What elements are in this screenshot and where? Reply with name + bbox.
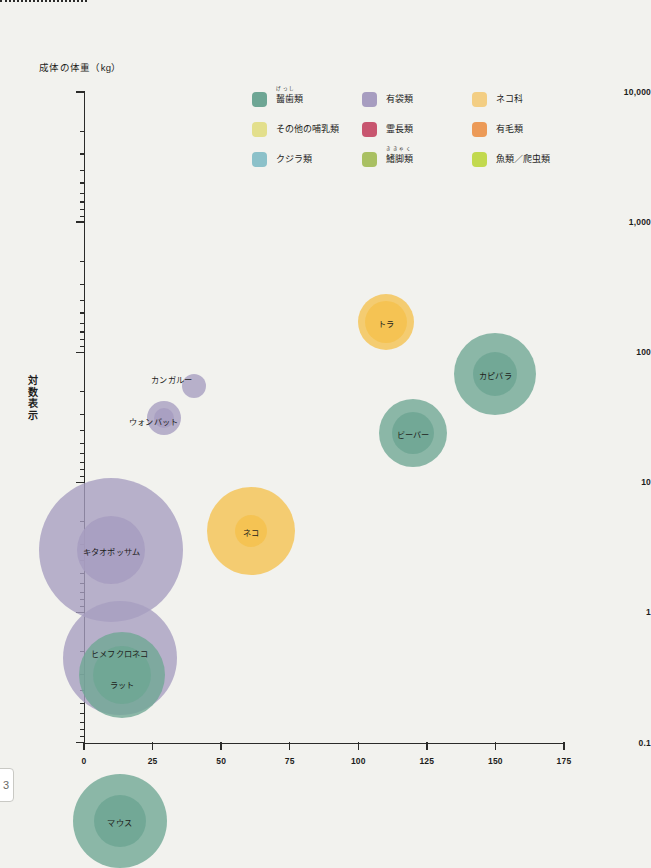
legend-label: ききゃく鰭脚類 xyxy=(386,154,413,165)
legend-swatch xyxy=(252,92,267,107)
legend-item[interactable]: 霊長類 xyxy=(362,118,472,140)
legend-swatch xyxy=(252,152,267,167)
legend-label: 有毛類 xyxy=(496,124,523,135)
y-tick-minor xyxy=(80,476,86,477)
legend-label: クジラ類 xyxy=(276,154,312,165)
y-tick-label: 1,000 xyxy=(577,217,651,227)
legend-swatch xyxy=(472,92,487,107)
x-tick-label: 75 xyxy=(270,756,310,766)
x-tick-label: 50 xyxy=(201,756,241,766)
legend-item[interactable]: ネコ科 xyxy=(472,88,523,110)
y-tick-minor xyxy=(80,722,86,723)
y-tick-minor xyxy=(80,312,86,313)
legend-item[interactable]: げっし齧歯類 xyxy=(252,88,362,110)
legend-label: 有袋類 xyxy=(386,94,413,105)
y-tick-major xyxy=(76,91,85,92)
bubble-label: マウス xyxy=(107,816,132,828)
y-tick-major xyxy=(76,352,85,353)
y-tick-minor xyxy=(80,182,86,183)
legend-swatch xyxy=(362,92,377,107)
y-tick-minor xyxy=(80,469,86,470)
legend-swatch xyxy=(472,122,487,137)
x-tick-major xyxy=(152,742,153,750)
y-tick-minor xyxy=(80,339,86,340)
y-tick-label: 0.1 xyxy=(577,738,651,748)
y-tick-minor xyxy=(80,729,86,730)
y-tick-minor xyxy=(80,300,86,301)
legend-item[interactable]: その他の哺乳類 xyxy=(252,118,362,140)
y-tick-minor xyxy=(80,462,86,463)
y-tick-minor xyxy=(80,443,86,444)
x-tick-label: 175 xyxy=(544,756,584,766)
x-tick-major xyxy=(563,742,564,750)
bubble-label: ウォンバット xyxy=(129,415,178,427)
legend-label: 魚類／爬虫類 xyxy=(496,154,550,165)
bubble-label: キタオポッサム xyxy=(83,545,140,557)
bubble-label: カンガルー xyxy=(151,373,192,385)
bubble-label: トラ xyxy=(378,317,394,329)
legend: げっし齧歯類有袋類ネコ科その他の哺乳類霊長類有毛類クジラ類ききゃく鰭脚類魚類／爬… xyxy=(252,88,648,178)
y-tick-minor xyxy=(80,131,86,132)
legend-label: 霊長類 xyxy=(386,124,413,135)
y-tick-label: 10 xyxy=(577,477,651,487)
y-tick-minor xyxy=(80,331,86,332)
legend-row: その他の哺乳類霊長類有毛類 xyxy=(252,118,648,148)
y-tick-minor xyxy=(80,284,86,285)
y-tick-minor xyxy=(80,736,86,737)
legend-item[interactable]: 有毛類 xyxy=(472,118,523,140)
y-tick-minor xyxy=(80,414,86,415)
x-tick-label: 150 xyxy=(475,756,515,766)
bubble-label: ヒメフクロネコ xyxy=(91,647,148,659)
x-tick-major xyxy=(426,742,427,750)
legend-row: クジラ類ききゃく鰭脚類魚類／爬虫類 xyxy=(252,148,648,178)
y-tick-minor xyxy=(80,170,86,171)
y-tick-minor xyxy=(80,153,86,154)
legend-label: その他の哺乳類 xyxy=(276,124,339,135)
legend-swatch xyxy=(362,122,377,137)
y-tick-minor xyxy=(80,453,86,454)
y-tick-minor xyxy=(80,209,86,210)
y-tick-major xyxy=(76,221,85,222)
bubble-label: ビーバー xyxy=(397,428,430,440)
legend-row: げっし齧歯類有袋類ネコ科 xyxy=(252,88,648,118)
y-tick-minor xyxy=(80,323,86,324)
y-tick-minor xyxy=(80,346,86,347)
legend-swatch xyxy=(362,152,377,167)
legend-swatch xyxy=(472,152,487,167)
x-tick-label: 25 xyxy=(133,756,173,766)
y-tick-label: 1 xyxy=(577,607,651,617)
legend-item[interactable]: 魚類／爬虫類 xyxy=(472,148,550,170)
y-tick-minor xyxy=(80,193,86,194)
bubble-label: ネコ xyxy=(243,526,259,538)
legend-furigana: げっし xyxy=(276,86,296,91)
y-tick-minor xyxy=(80,713,86,714)
y-tick-minor xyxy=(80,391,86,392)
y-axis-title: 成体の体重（kg） xyxy=(39,60,122,74)
y-tick-minor xyxy=(80,216,86,217)
y-tick-minor xyxy=(80,261,86,262)
legend-item[interactable]: クジラ類 xyxy=(252,148,362,170)
x-tick-major xyxy=(220,742,221,750)
legend-furigana: ききゃく xyxy=(386,146,412,151)
x-tick-major xyxy=(289,742,290,750)
page-number: 3 xyxy=(0,768,14,802)
y-axis-scale-label: 対数表示 xyxy=(27,375,39,421)
y-tick-minor xyxy=(80,430,86,431)
x-tick-label: 100 xyxy=(338,756,378,766)
x-axis-line xyxy=(84,743,564,744)
legend-item[interactable]: 有袋類 xyxy=(362,88,472,110)
bubble-label: ラット xyxy=(110,678,135,690)
x-tick-major xyxy=(83,742,84,750)
x-tick-label: 125 xyxy=(407,756,447,766)
x-tick-major xyxy=(358,742,359,750)
x-tick-major xyxy=(495,742,496,750)
legend-swatch xyxy=(252,122,267,137)
y-tick-minor xyxy=(80,201,86,202)
legend-item[interactable]: ききゃく鰭脚類 xyxy=(362,148,472,170)
bubble-label: カピバラ xyxy=(479,369,512,381)
x-axis-dotted-extension xyxy=(0,0,87,2)
legend-label: げっし齧歯類 xyxy=(276,94,303,105)
x-tick-label: 0 xyxy=(64,756,104,766)
y-tick-label: 100 xyxy=(577,347,651,357)
